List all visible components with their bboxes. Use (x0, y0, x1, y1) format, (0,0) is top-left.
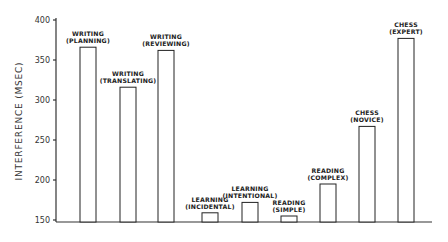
bar-label-line2: (PLANNING) (66, 37, 110, 44)
y-axis-title: INTERFERENCE (MSEC) (14, 62, 24, 181)
bar (281, 216, 297, 222)
bar-label-line2: (REVIEWING) (142, 40, 190, 47)
bar-label-line1: READING (273, 199, 306, 206)
bar-label-line2: (SIMPLE) (273, 206, 306, 213)
y-tick-label: 400 (35, 16, 50, 25)
bar-label-line1: CHESS (394, 21, 418, 28)
bar-label-line1: WRITING (150, 33, 182, 40)
bar-label-line1: WRITING (112, 70, 144, 77)
bar-label-line1: LEARNING (231, 185, 268, 192)
bar-label-line2: (INCIDENTAL) (185, 203, 234, 210)
bar (242, 202, 258, 222)
y-tick-label: 250 (35, 136, 50, 145)
bar-label-line1: CHESS (355, 109, 379, 116)
bar-label-line2: (TRANSLATING) (100, 77, 157, 84)
bar-label-line2: (EXPERT) (389, 28, 423, 35)
y-tick-label: 150 (35, 216, 50, 225)
bar-chart: INTERFERENCE (MSEC) 150200250300350400 W… (0, 0, 448, 242)
bar (398, 38, 414, 222)
bar (359, 126, 375, 222)
bar-label-line1: WRITING (72, 30, 104, 37)
bar-label-line2: (NOVICE) (350, 116, 383, 123)
y-tick-label: 350 (35, 56, 50, 65)
y-tick-label: 300 (35, 96, 50, 105)
y-axis-label: INTERFERENCE (MSEC) (14, 62, 24, 181)
bar (80, 47, 96, 222)
bar (158, 50, 174, 222)
bar-label-line2: (INTENTIONAL) (222, 192, 277, 199)
bar-label-line2: (COMPLEX) (308, 174, 349, 181)
y-tick-label: 200 (35, 176, 50, 185)
bar (320, 184, 336, 222)
bar (202, 213, 218, 222)
y-axis: 150200250300350400 (35, 16, 56, 225)
bar-label-line1: READING (312, 167, 345, 174)
bar (120, 87, 136, 222)
